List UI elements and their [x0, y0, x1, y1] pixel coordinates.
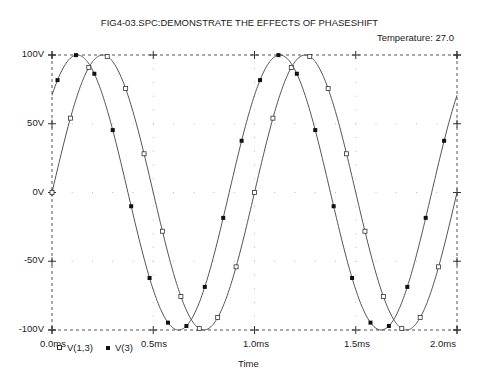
data-marker [197, 327, 201, 331]
legend: V(1,3) [57, 342, 93, 353]
data-marker [92, 72, 96, 76]
filled-dot-marker-icon [106, 346, 110, 350]
data-marker [50, 191, 54, 195]
data-marker [276, 53, 280, 57]
y-tick-label: 50V [4, 117, 44, 128]
data-marker [400, 327, 404, 331]
data-marker [105, 54, 109, 58]
data-marker [308, 54, 312, 58]
data-marker [271, 116, 275, 120]
x-tick-label: 2.0ms [418, 338, 468, 349]
data-marker [203, 285, 207, 289]
data-marker [424, 216, 428, 220]
data-marker [234, 265, 238, 269]
data-marker [166, 321, 170, 325]
data-marker [345, 152, 349, 156]
data-marker [111, 128, 115, 132]
legend-label: V(3) [115, 342, 133, 353]
data-marker [368, 321, 372, 325]
open-square-marker-icon [57, 345, 62, 350]
data-marker [179, 294, 183, 298]
legend: V(3) [106, 342, 133, 353]
data-marker [442, 139, 446, 143]
data-marker [240, 139, 244, 143]
data-marker [363, 229, 367, 233]
data-marker [437, 265, 441, 269]
data-marker [418, 316, 422, 320]
data-marker [124, 87, 128, 91]
data-marker [221, 216, 225, 220]
data-marker [68, 116, 72, 120]
data-marker [258, 78, 262, 82]
data-marker [253, 191, 257, 195]
data-marker [148, 276, 152, 280]
plot-area [0, 0, 479, 383]
data-marker [129, 204, 133, 208]
y-tick-label: 100V [4, 48, 44, 59]
y-tick-label: -100V [4, 323, 44, 334]
x-tick-label: 1.5ms [332, 338, 382, 349]
data-marker [405, 285, 409, 289]
data-marker [313, 128, 317, 132]
x-tick-label: 1.0ms [231, 338, 281, 349]
data-marker [74, 53, 78, 57]
data-marker [56, 78, 60, 82]
y-tick-label: 0V [4, 186, 44, 197]
data-marker [295, 72, 299, 76]
y-tick-label: -50V [4, 254, 44, 265]
data-marker [142, 152, 146, 156]
data-marker [184, 324, 188, 328]
x-axis-title: Time [238, 358, 259, 369]
data-marker [350, 276, 354, 280]
legend-label: V(1,3) [67, 342, 93, 353]
data-marker [326, 87, 330, 91]
data-marker [216, 316, 220, 320]
data-marker [160, 229, 164, 233]
data-marker [332, 204, 336, 208]
data-marker [387, 324, 391, 328]
x-tick-label: 0.5ms [129, 338, 179, 349]
data-marker [381, 294, 385, 298]
